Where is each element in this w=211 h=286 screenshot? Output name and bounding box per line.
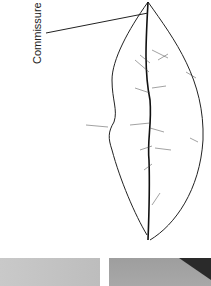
- lips-figure: Commissure: [0, 0, 211, 286]
- photo-right: [109, 258, 211, 286]
- photo-left: [0, 258, 100, 286]
- shadow-corner: [179, 258, 211, 280]
- commissure-label: Commissure: [31, 2, 43, 64]
- leader-line: [46, 13, 148, 33]
